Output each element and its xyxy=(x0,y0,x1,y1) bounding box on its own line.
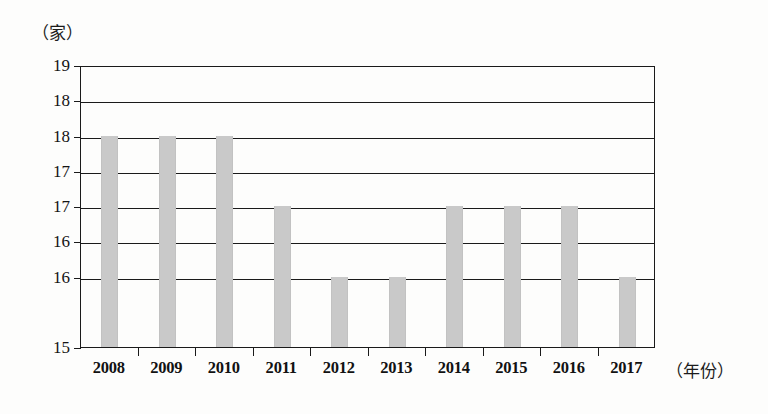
bar xyxy=(619,277,636,348)
gridline xyxy=(81,102,654,103)
bar xyxy=(101,136,118,348)
x-axis-tick-mark xyxy=(138,348,139,356)
x-axis-tick-mark xyxy=(368,348,369,356)
x-axis-tick-mark xyxy=(540,348,541,356)
y-axis-tick-label: 16 xyxy=(26,233,70,250)
x-axis-tick-label: 2017 xyxy=(596,358,656,378)
x-axis-tick-mark xyxy=(483,348,484,356)
bar xyxy=(389,277,406,348)
y-axis-tick-label: 17 xyxy=(26,198,70,215)
bar xyxy=(331,277,348,348)
x-axis-tick-mark xyxy=(195,348,196,356)
x-axis-tick-label: 2014 xyxy=(424,358,484,378)
y-axis-unit-label: （家） xyxy=(32,19,83,44)
y-axis-tick-label: 15 xyxy=(26,339,70,356)
x-axis-tick-label: 2011 xyxy=(251,358,311,378)
y-axis-tick-label: 18 xyxy=(26,92,70,109)
bar xyxy=(159,136,176,348)
x-axis-tick-mark xyxy=(253,348,254,356)
y-axis-tick-label: 19 xyxy=(26,57,70,74)
x-axis-tick-label: 2013 xyxy=(366,358,426,378)
bar xyxy=(274,206,291,347)
bar-chart: （家） 1918181717161615 2008200920102011201… xyxy=(0,0,768,414)
x-axis-tick-label: 2012 xyxy=(309,358,369,378)
plot-area xyxy=(80,66,655,348)
x-axis-tick-mark xyxy=(425,348,426,356)
x-axis-tick-label: 2009 xyxy=(136,358,196,378)
x-axis-unit-label: （年份） xyxy=(666,357,734,382)
bar xyxy=(446,206,463,347)
bar xyxy=(561,206,578,347)
y-axis-tick-label: 18 xyxy=(26,128,70,145)
y-axis-tick-label: 17 xyxy=(26,163,70,180)
bar xyxy=(504,206,521,347)
bar xyxy=(216,136,233,348)
y-axis-tick-label: 16 xyxy=(26,269,70,286)
x-axis-tick-mark xyxy=(598,348,599,356)
x-axis-tick-label: 2010 xyxy=(194,358,254,378)
x-axis-tick-mark xyxy=(310,348,311,356)
x-axis-tick-label: 2016 xyxy=(539,358,599,378)
x-axis-tick-label: 2008 xyxy=(79,358,139,378)
x-axis-tick-label: 2015 xyxy=(481,358,541,378)
y-axis-tick-mark xyxy=(74,348,81,349)
